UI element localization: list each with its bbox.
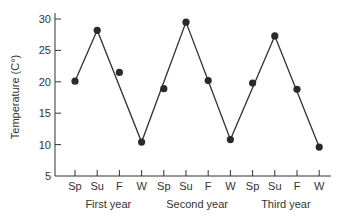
x-tick-label: F (205, 180, 212, 192)
data-point-marker (94, 27, 101, 34)
y-tick-label: 10 (39, 139, 51, 151)
trend-line (75, 22, 319, 147)
data-point-marker (116, 69, 123, 76)
data-point-marker (316, 144, 323, 151)
x-tick-label: Su (90, 180, 103, 192)
year-labels: First yearSecond yearThird year (85, 198, 311, 210)
data-point-marker (138, 138, 145, 145)
y-tick-label: 5 (45, 170, 51, 182)
data-point-marker (249, 79, 256, 86)
data-point-marker (71, 78, 78, 85)
data-point-marker (205, 77, 212, 84)
y-tick-label: 20 (39, 76, 51, 88)
x-tick-label: F (116, 180, 123, 192)
x-tick-label: W (136, 180, 147, 192)
x-tick-label: Su (179, 180, 192, 192)
trend-polyline (75, 22, 319, 147)
data-point-marker (293, 86, 300, 93)
x-tick-label: Sp (68, 180, 81, 192)
temperature-line-chart: 51015202530 SpSuFWSpSuFWSpSuFW First yea… (0, 0, 345, 221)
x-tick-label: Sp (246, 180, 259, 192)
x-tick-label: W (225, 180, 236, 192)
year-label: Third year (261, 198, 311, 210)
x-tick-label: Su (268, 180, 281, 192)
y-axis: 51015202530 (39, 13, 61, 182)
year-label: First year (85, 198, 131, 210)
data-point-marker (271, 32, 278, 39)
y-tick-label: 15 (39, 107, 51, 119)
y-tick-label: 25 (39, 44, 51, 56)
x-tick-label: Sp (157, 180, 170, 192)
x-axis: SpSuFWSpSuFWSpSuFW (55, 170, 331, 192)
data-point-marker (160, 85, 167, 92)
x-tick-label: F (294, 180, 301, 192)
x-tick-label: W (314, 180, 325, 192)
data-markers (71, 19, 322, 151)
year-label: Second year (166, 198, 228, 210)
data-point-marker (227, 136, 234, 143)
y-axis-title: Temperature (C°) (9, 55, 21, 139)
data-point-marker (182, 19, 189, 26)
y-tick-label: 30 (39, 13, 51, 25)
